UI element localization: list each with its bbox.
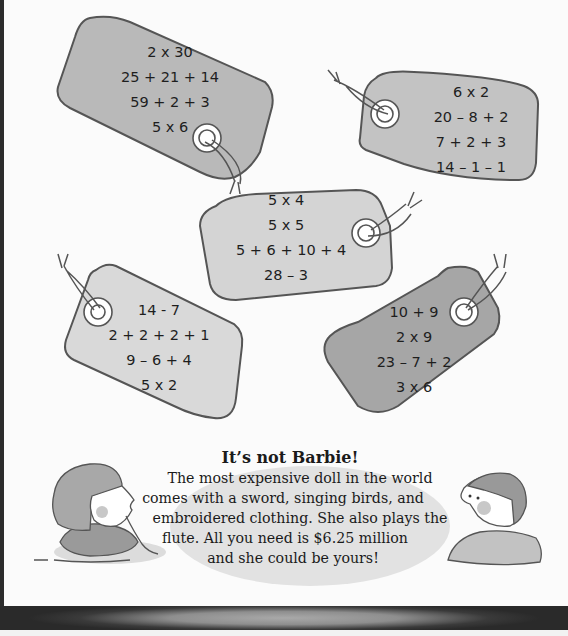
tag-3-expression: 5 x 5 xyxy=(236,213,336,238)
page-left-border xyxy=(0,0,4,606)
fact-line: embroidered clothing. She also plays the xyxy=(140,508,460,528)
tag-2-expression: 6 x 2 xyxy=(416,80,526,105)
tag-2-expression: 7 + 2 + 3 xyxy=(416,130,526,155)
fact-body: The most expensive doll in the world com… xyxy=(120,468,460,568)
fact-line: and she could be yours! xyxy=(126,548,460,568)
page-bottom-strip xyxy=(0,630,568,636)
tag-2-expression: 14 – 1 – 1 xyxy=(416,155,526,180)
price-tag-4: 14 - 7 2 + 2 + 2 + 1 9 – 6 + 4 5 x 2 xyxy=(54,250,254,426)
tag-1-expression: 59 + 2 + 3 xyxy=(120,90,220,115)
tag-4-expression: 5 x 2 xyxy=(104,373,214,398)
tag-2-expression: 20 – 8 + 2 xyxy=(416,105,526,130)
fact-line: The most expensive doll in the world xyxy=(140,468,460,488)
tag-1-expression: 25 + 21 + 14 xyxy=(120,65,220,90)
fact-line: comes with a sword, singing birds, and xyxy=(106,488,460,508)
tag-5-expression: 3 x 6 xyxy=(364,375,464,400)
tag-4-expression: 14 - 7 xyxy=(104,298,214,323)
worksheet-page: 2 x 30 25 + 21 + 14 59 + 2 + 3 5 x 6 6 x… xyxy=(0,0,568,636)
fact-title: It’s not Barbie! xyxy=(120,448,460,468)
price-tag-5: 10 + 9 2 x 9 23 – 7 + 2 3 x 6 xyxy=(318,246,528,422)
tag-1-expression: 2 x 30 xyxy=(120,40,220,65)
tag-3-expression: 5 x 4 xyxy=(236,188,336,213)
fun-fact: It’s not Barbie! The most expensive doll… xyxy=(120,448,460,568)
page-bottom-bar xyxy=(0,606,568,630)
tag-1-expression: 5 x 6 xyxy=(120,115,220,140)
price-tag-1: 2 x 30 25 + 21 + 14 59 + 2 + 3 5 x 6 xyxy=(50,12,250,187)
tag-4-expression: 9 – 6 + 4 xyxy=(104,348,214,373)
tag-5-expression: 2 x 9 xyxy=(364,325,464,350)
fact-line: flute. All you need is $6.25 million xyxy=(110,528,460,548)
tag-4-expression: 2 + 2 + 2 + 1 xyxy=(104,323,214,348)
price-tag-2: 6 x 2 20 – 8 + 2 7 + 2 + 3 14 – 1 – 1 xyxy=(324,68,564,188)
tag-5-expression: 23 – 7 + 2 xyxy=(364,350,464,375)
tag-5-expression: 10 + 9 xyxy=(364,300,464,325)
